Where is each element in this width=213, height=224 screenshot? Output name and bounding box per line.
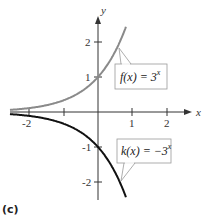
y-tick-label-neg2: -2: [82, 176, 91, 188]
y-axis-label: y: [100, 4, 106, 16]
x-tick-label-2: 2: [164, 117, 170, 129]
curve-f: [10, 27, 126, 110]
x-axis-arrow-icon: [184, 109, 192, 115]
y-axis-arrow-icon: [95, 16, 101, 24]
y-tick-label-2: 2: [85, 36, 91, 48]
y-tick-label-neg1: -1: [82, 141, 91, 153]
panel-label: (c): [2, 203, 19, 216]
f-label: f(x) = 3x: [120, 68, 161, 84]
k-callout: k(x) = −3x: [117, 139, 172, 181]
k-label: k(x) = −3x: [121, 142, 172, 158]
x-tick-label-neg2: -2: [22, 117, 31, 129]
exponential-graph: x y -2 1 2 2 1 -1 -2 f(x) = 3x k(x) = −3…: [0, 0, 213, 205]
f-callout: f(x) = 3x: [115, 48, 167, 89]
x-axis-label: x: [195, 106, 201, 118]
x-tick-label-1: 1: [129, 117, 135, 129]
y-tick-label-1: 1: [85, 71, 91, 83]
